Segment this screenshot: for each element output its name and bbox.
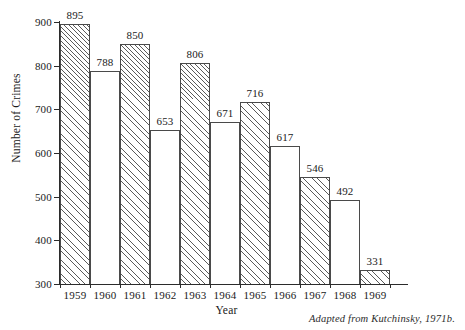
bar-value-label: 331 bbox=[354, 256, 396, 267]
y-tick-label: 500 bbox=[16, 192, 52, 203]
bar-body bbox=[120, 44, 150, 284]
bar-body bbox=[240, 102, 270, 284]
x-tick-mark bbox=[330, 284, 331, 288]
x-tick-mark bbox=[270, 284, 271, 288]
y-axis-title: Number of Crimes bbox=[10, 58, 22, 178]
bar-value-label: 806 bbox=[174, 49, 216, 60]
x-tick-mark bbox=[180, 284, 181, 288]
bar-value-label: 850 bbox=[114, 30, 156, 41]
source-note: Adapted from Kutchinsky, 1971b. bbox=[309, 313, 455, 324]
y-tick-label: 300 bbox=[16, 279, 52, 290]
bar-1960[interactable]: 788 bbox=[90, 71, 120, 284]
bar-body bbox=[330, 200, 360, 284]
x-tick-mark bbox=[390, 284, 391, 288]
x-tick-mark bbox=[360, 284, 361, 288]
bar-body bbox=[90, 71, 120, 284]
bar-1961[interactable]: 850 bbox=[120, 44, 150, 284]
bar-body bbox=[210, 122, 240, 284]
y-tick-label-text: 800 bbox=[22, 61, 52, 72]
y-tick-label: 400 bbox=[16, 235, 52, 246]
x-tick-mark bbox=[90, 284, 91, 288]
bar-1968[interactable]: 492 bbox=[330, 200, 360, 284]
y-tick-label-text: 600 bbox=[22, 148, 52, 159]
bar-value-label: 492 bbox=[324, 186, 366, 197]
y-tick-label-text: 300 bbox=[22, 279, 52, 290]
x-tick-mark bbox=[120, 284, 121, 288]
bar-chart-figure: Number of Crimes 300400500600700800900 8… bbox=[0, 0, 465, 330]
bar-1964[interactable]: 671 bbox=[210, 122, 240, 284]
y-tick-label: 700 bbox=[16, 104, 52, 115]
x-tick-mark bbox=[150, 284, 151, 288]
bar-body bbox=[150, 130, 180, 284]
plot-area: 895788850653806671716617546492331 bbox=[60, 22, 390, 284]
bar-1963[interactable]: 806 bbox=[180, 63, 210, 284]
y-tick-label-text: 700 bbox=[22, 104, 52, 115]
bar-body bbox=[360, 270, 390, 284]
bar-value-label: 895 bbox=[54, 10, 96, 21]
bar-value-label: 716 bbox=[234, 88, 276, 99]
y-tick-label: 800 bbox=[16, 61, 52, 72]
bar-1965[interactable]: 716 bbox=[240, 102, 270, 284]
y-tick-label-text: 900 bbox=[22, 17, 52, 28]
x-axis-title-text: Year bbox=[216, 304, 238, 316]
x-tick-label-1969: 1969 bbox=[355, 290, 395, 301]
x-tick-mark bbox=[240, 284, 241, 288]
bar-1962[interactable]: 653 bbox=[150, 130, 180, 284]
x-tick-mark bbox=[210, 284, 211, 288]
y-tick-label-text: 500 bbox=[22, 192, 52, 203]
x-tick-mark bbox=[60, 284, 61, 288]
x-axis-line bbox=[59, 284, 408, 285]
y-tick-label-text: 400 bbox=[22, 235, 52, 246]
bar-value-label: 546 bbox=[294, 163, 336, 174]
bar-body bbox=[180, 63, 210, 284]
y-tick-label: 900 bbox=[16, 17, 52, 28]
x-tick-mark bbox=[300, 284, 301, 288]
bar-1969[interactable]: 331 bbox=[360, 270, 390, 284]
bar-value-label: 617 bbox=[264, 132, 306, 143]
y-tick-label: 600 bbox=[16, 148, 52, 159]
